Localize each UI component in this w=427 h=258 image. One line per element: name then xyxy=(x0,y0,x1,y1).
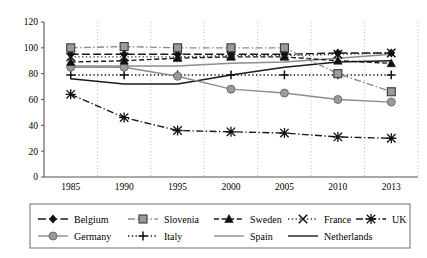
marker-circle xyxy=(334,96,342,104)
series-uk[interactable] xyxy=(66,89,397,143)
y-tick-label: 0 xyxy=(33,172,38,182)
marker-plus xyxy=(387,71,396,80)
y-tick-label: 80 xyxy=(29,69,39,79)
marker-asterisk xyxy=(226,127,236,137)
x-tick-label: 2000 xyxy=(222,182,241,192)
marker-square xyxy=(120,43,128,51)
legend-label: Sweden xyxy=(250,214,282,225)
marker-square xyxy=(139,215,147,223)
x-tick-label: 2010 xyxy=(328,182,347,192)
data-series-layer[interactable] xyxy=(66,43,397,144)
marker-circle xyxy=(387,98,395,106)
legend-label: France xyxy=(324,214,352,225)
marker-square xyxy=(280,44,288,52)
y-tick-label: 20 xyxy=(29,147,39,157)
chart-legend[interactable]: BelgiumSloveniaSwedenFranceUKGermanyItal… xyxy=(30,204,410,248)
legend-label: Germany xyxy=(74,231,111,242)
marker-circle xyxy=(174,72,182,80)
line-chart-canvas[interactable]: 020406080100120 198519901995200020052010… xyxy=(0,0,427,258)
y-axis-tick-labels: 020406080100120 xyxy=(24,17,44,182)
x-axis-tick-labels: 1985199019952000200520102013 xyxy=(61,182,401,192)
x-tick-label: 2005 xyxy=(275,182,294,192)
marker-square xyxy=(227,44,235,52)
marker-square xyxy=(67,44,75,52)
marker-asterisk xyxy=(333,132,343,142)
marker-asterisk xyxy=(173,126,183,136)
y-tick-label: 60 xyxy=(29,95,39,105)
legend-label: Slovenia xyxy=(164,214,200,225)
marker-circle xyxy=(49,232,57,240)
marker-square xyxy=(174,44,182,52)
marker-diamond xyxy=(121,50,128,58)
marker-plus xyxy=(120,71,129,80)
marker-circle xyxy=(227,85,235,93)
x-tick-label: 1985 xyxy=(61,182,80,192)
legend-label: Belgium xyxy=(74,214,109,225)
y-tick-label: 100 xyxy=(24,43,39,53)
legend-label: Italy xyxy=(164,231,182,242)
marker-asterisk xyxy=(366,214,376,224)
marker-plus xyxy=(280,71,289,80)
series-italy[interactable] xyxy=(66,71,395,80)
marker-asterisk xyxy=(119,113,129,123)
marker-asterisk xyxy=(386,133,396,143)
x-tick-label: 1990 xyxy=(115,182,134,192)
legend-label: UK xyxy=(392,214,407,225)
chart-figure: 020406080100120 198519901995200020052010… xyxy=(0,0,427,258)
x-tick-label: 1995 xyxy=(168,182,187,192)
marker-asterisk xyxy=(279,128,289,138)
y-tick-label: 40 xyxy=(29,121,39,131)
legend-item-slovenia[interactable]: Slovenia xyxy=(128,214,200,225)
gridlines xyxy=(97,22,418,177)
y-tick-label: 120 xyxy=(24,17,39,27)
marker-plus xyxy=(227,71,236,80)
marker-asterisk xyxy=(66,89,76,99)
series-germany[interactable] xyxy=(67,63,396,106)
marker-square xyxy=(387,88,395,96)
x-tick-label: 2013 xyxy=(382,182,401,192)
marker-square xyxy=(334,70,342,78)
marker-circle xyxy=(280,89,288,97)
marker-plus xyxy=(66,71,75,80)
legend-label: Netherlands xyxy=(324,231,372,242)
legend-label: Spain xyxy=(250,231,273,242)
